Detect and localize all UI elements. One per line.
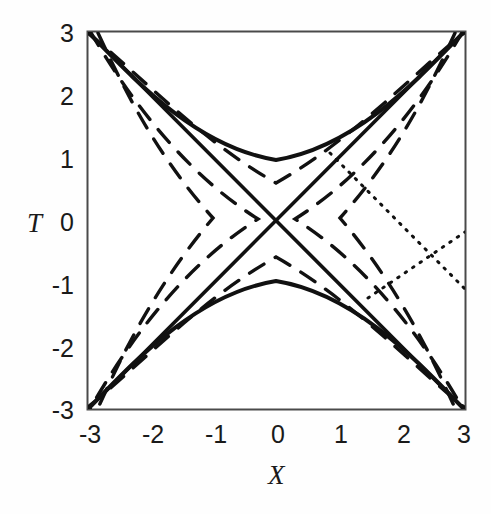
spacetime-diagram-figure: 3 2 1 0 -1 -2 -3 -3 -2 -1 0 1 2 3 T X xyxy=(0,0,491,514)
ytick-label-3: 3 xyxy=(22,21,74,46)
xtick-label-minus-1: -1 xyxy=(205,422,227,447)
ytick-label-minus-1: -1 xyxy=(22,273,74,298)
xtick-label-0: 0 xyxy=(271,422,285,447)
xtick-label-3: 3 xyxy=(457,422,471,447)
xtick-label-2: 2 xyxy=(397,422,411,447)
xtick-label-minus-2: -2 xyxy=(142,422,164,447)
y-axis-title: T xyxy=(27,210,42,237)
xtick-label-1: 1 xyxy=(334,422,348,447)
plot-canvas xyxy=(0,0,491,514)
x-axis-title: X xyxy=(268,462,285,489)
ytick-label-1: 1 xyxy=(22,147,74,172)
xtick-label-minus-3: -3 xyxy=(79,422,101,447)
ytick-label-minus-3: -3 xyxy=(22,398,74,423)
ytick-label-minus-2: -2 xyxy=(22,336,74,361)
ytick-label-2: 2 xyxy=(22,84,74,109)
